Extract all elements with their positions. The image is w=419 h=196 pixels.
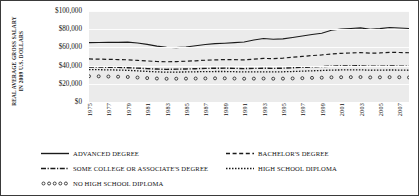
chart-legend: ADVANCED DEGREEBACHELOR'S DEGREESOME COL…: [41, 147, 401, 193]
legend-item[interactable]: HIGH SCHOOL DIPLOMA: [226, 162, 337, 175]
series-lines: [89, 11, 409, 102]
x-axis-tick-label: 2005: [377, 103, 384, 116]
y-axis-tick-label: $0: [75, 98, 82, 106]
y-axis-tick-label: $60,000: [59, 43, 82, 51]
x-axis-tick-label: 1977: [105, 103, 112, 116]
legend-key-solid-icon: [41, 149, 69, 158]
plot-area: [89, 11, 409, 102]
y-axis-title-line-2: IN 2009 U.S. DOLLARS: [18, 16, 25, 106]
legend-key-dashed-icon: [226, 149, 254, 158]
gridline: [89, 29, 409, 30]
gridline: [89, 84, 409, 85]
x-axis-tick-label: 1993: [261, 103, 268, 116]
x-axis-tick-label: 1995: [280, 103, 287, 116]
series-circles: [89, 75, 409, 81]
legend-label: HIGH SCHOOL DIPLOMA: [258, 165, 337, 172]
legend-item[interactable]: NO HIGH SCHOOL DIPLOMA: [41, 177, 163, 190]
x-axis-tick-label: 1987: [202, 103, 209, 116]
series-dotted: [89, 70, 409, 73]
x-axis-tick-label: 2001: [338, 103, 345, 116]
y-axis-title-line-1: REAL AVERAGE GROSS SALARY: [11, 16, 18, 106]
legend-item[interactable]: ADVANCED DEGREE: [41, 147, 139, 160]
x-axis-tick-label: 1989: [222, 103, 229, 116]
x-axis-tick-label: 1985: [183, 103, 190, 116]
legend-key-circles-icon: [41, 179, 69, 188]
legend-key-dashdot-icon: [41, 164, 69, 173]
x-axis-tick-label: 1975: [86, 103, 93, 116]
x-axis-tick-label: 1981: [144, 103, 151, 116]
chart-figure: REAL AVERAGE GROSS SALARY IN 2009 U.S. D…: [0, 0, 419, 196]
legend-item[interactable]: BACHELOR'S DEGREE: [226, 147, 329, 160]
x-axis-tick-label: 1997: [299, 103, 306, 116]
legend-key-dotted-icon: [226, 164, 254, 173]
x-axis-tick-label: 1991: [241, 103, 248, 116]
x-axis-tick-label: 1999: [319, 103, 326, 116]
x-axis-tick-label: 2007: [396, 103, 403, 116]
y-axis-tick-label: $80,000: [59, 25, 82, 33]
gridline: [89, 66, 409, 67]
gridline: [89, 11, 409, 12]
y-axis-tick-label: $40,000: [59, 62, 82, 70]
legend-label: BACHELOR'S DEGREE: [258, 150, 329, 157]
series-solid: [89, 27, 409, 47]
y-axis-tick-labels: $0$20,000$40,000$60,000$80,000$100,000: [29, 9, 85, 113]
legend-label: SOME COLLEGE OR ASSOCIATE'S DEGREE: [73, 165, 208, 172]
y-axis-title: REAL AVERAGE GROSS SALARY IN 2009 U.S. D…: [5, 5, 31, 117]
gridline: [89, 47, 409, 48]
series-dashed: [89, 52, 409, 61]
legend-label: ADVANCED DEGREE: [73, 150, 139, 157]
x-axis-tick-label: 2003: [358, 103, 365, 116]
x-axis-tick-labels: 1975197719791981198319851987198919911993…: [89, 103, 409, 141]
legend-item[interactable]: SOME COLLEGE OR ASSOCIATE'S DEGREE: [41, 162, 208, 175]
legend-label: NO HIGH SCHOOL DIPLOMA: [73, 180, 163, 187]
x-axis-tick-label: 1983: [164, 103, 171, 116]
y-axis-tick-label: $100,000: [55, 7, 82, 15]
x-axis-tick-label: 1979: [125, 103, 132, 116]
y-axis-tick-label: $20,000: [59, 80, 82, 88]
